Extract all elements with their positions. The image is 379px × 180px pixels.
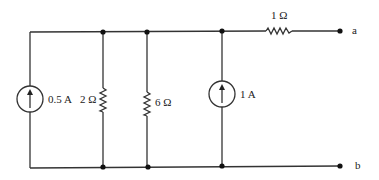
junction-node	[144, 29, 149, 34]
junction-node	[219, 163, 224, 168]
junction-node	[145, 164, 150, 169]
circuit-canvas: 0.5 A 2 Ω 6 Ω 1 A 1 Ω a b	[0, 0, 379, 180]
junction-node	[219, 28, 224, 33]
bottom-wire	[30, 166, 340, 168]
terminal-a-node	[337, 28, 342, 33]
resistor-2ohm-icon	[100, 88, 106, 112]
terminal-b-label: b	[355, 159, 361, 171]
junction-node	[100, 29, 105, 34]
resistor-1ohm-icon	[266, 28, 292, 34]
current-source-1a-icon	[209, 81, 235, 107]
circuit-diagram: 0.5 A 2 Ω 6 Ω 1 A 1 Ω a b	[0, 0, 379, 180]
resistor-2-label: 2 Ω	[80, 93, 96, 105]
resistor-1-label: 1 Ω	[271, 9, 287, 21]
current-source-0.5a-icon	[17, 86, 43, 112]
junction-node	[100, 164, 105, 169]
resistor-6-label: 6 Ω	[155, 96, 171, 108]
terminal-b-node	[337, 163, 342, 168]
terminal-a-label: a	[352, 24, 357, 36]
source-right-label: 1 A	[240, 88, 256, 100]
source-left-label: 0.5 A	[48, 93, 72, 105]
resistor-6ohm-icon	[144, 92, 150, 116]
